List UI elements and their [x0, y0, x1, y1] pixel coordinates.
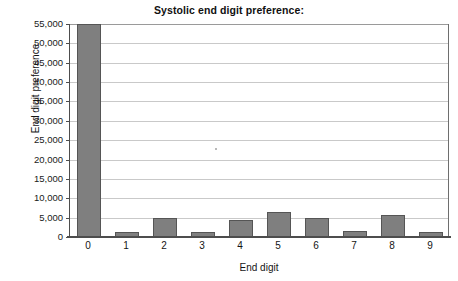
- x-axis-tick-label: 5: [275, 240, 281, 251]
- gridline: [70, 121, 448, 122]
- x-axis-title: End digit: [68, 262, 450, 273]
- plot-area: 05,00010,00015,00020,00025,00030,00035,0…: [69, 24, 449, 237]
- y-axis-tick-label: 45,000: [34, 58, 63, 68]
- gridline: [70, 82, 448, 83]
- y-axis-tick: [66, 43, 70, 44]
- x-axis-tick-label: 3: [199, 240, 205, 251]
- y-axis-tick: [66, 82, 70, 83]
- x-axis-tick-label: 2: [161, 240, 167, 251]
- x-axis-tick-label: 0: [85, 240, 91, 251]
- y-axis-tick: [66, 63, 70, 64]
- x-axis-tick-label: 9: [427, 240, 433, 251]
- y-axis-tick: [66, 140, 70, 141]
- y-axis-tick: [66, 218, 70, 219]
- gridline: [70, 101, 448, 102]
- gridline: [70, 140, 448, 141]
- x-axis-tick-label: 4: [237, 240, 243, 251]
- y-axis-tick: [66, 101, 70, 102]
- y-axis-tick-label: 35,000: [34, 97, 63, 107]
- bar-6: [305, 218, 329, 237]
- bar-0: [77, 24, 101, 237]
- gridline: [70, 24, 448, 25]
- bar-2: [153, 218, 177, 237]
- bar-5: [267, 212, 291, 237]
- y-axis-tick-label: 55,000: [34, 19, 63, 29]
- y-axis-tick-label: 50,000: [34, 39, 63, 49]
- y-axis-tick-label: 40,000: [34, 77, 63, 87]
- x-axis-tick-label: 6: [313, 240, 319, 251]
- y-axis-tick: [66, 179, 70, 180]
- x-axis-tick-label: 8: [389, 240, 395, 251]
- gridline: [70, 198, 448, 199]
- gridline: [70, 43, 448, 44]
- y-axis-tick-label: 15,000: [34, 174, 63, 184]
- scan-artifact-speck: [215, 148, 217, 150]
- bar-8: [381, 215, 405, 237]
- y-axis-tick: [66, 160, 70, 161]
- bar-chart-figure: Systolic end digit preference: End digit…: [0, 0, 458, 281]
- x-axis-tick-label: 7: [351, 240, 357, 251]
- y-axis-tick-label: 10,000: [34, 194, 63, 204]
- gridline: [70, 179, 448, 180]
- chart-title: Systolic end digit preference:: [0, 4, 458, 16]
- y-axis-tick-label: 20,000: [34, 155, 63, 165]
- y-axis-tick: [66, 121, 70, 122]
- y-axis-tick: [66, 24, 70, 25]
- x-axis-tick-label: 1: [123, 240, 129, 251]
- y-axis-tick: [66, 198, 70, 199]
- y-axis-tick-label: 5,000: [39, 213, 63, 223]
- x-axis-line: [67, 236, 451, 238]
- y-axis-tick-label: 0: [58, 232, 63, 242]
- bar-4: [229, 220, 253, 237]
- gridline: [70, 160, 448, 161]
- gridline: [70, 63, 448, 64]
- y-axis-tick-label: 25,000: [34, 135, 63, 145]
- y-axis-tick-label: 30,000: [34, 116, 63, 126]
